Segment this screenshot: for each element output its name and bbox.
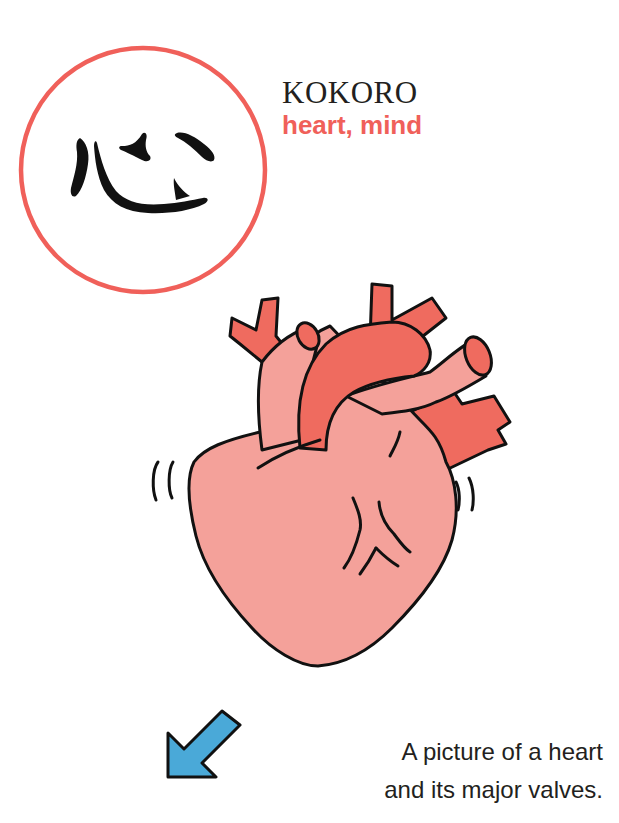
caption-line-1: A picture of a heart (384, 733, 603, 771)
heart-illustration (0, 0, 619, 823)
arrow-down-left-icon (160, 697, 250, 787)
caption-line-2: and its major valves. (384, 771, 603, 809)
caption: A picture of a heart and its major valve… (384, 733, 603, 809)
